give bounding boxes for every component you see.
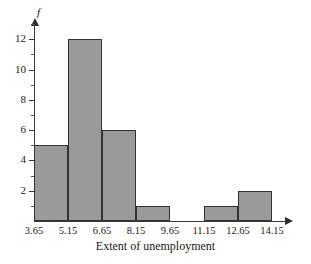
- y-tick-label-6: 6: [6, 124, 26, 135]
- plot-area: [34, 24, 286, 221]
- histogram-bar: [102, 130, 136, 221]
- y-axis-label: f: [37, 7, 40, 18]
- x-axis-title: Extent of unemployment: [0, 240, 311, 253]
- y-tick-label-4: 4: [6, 154, 26, 165]
- histogram-bar: [136, 206, 170, 221]
- histogram-figure: f 24681012 3.655.156.658.159.6511.1512.6…: [0, 0, 311, 264]
- histogram-bar: [68, 39, 102, 221]
- histogram-bar: [238, 191, 272, 221]
- x-axis-arrow-icon: [285, 217, 293, 225]
- y-tick-label-12: 12: [6, 33, 26, 44]
- histogram-bar: [204, 206, 238, 221]
- histogram-bar: [34, 145, 68, 221]
- y-tick-label-10: 10: [6, 64, 26, 75]
- y-tick-label-2: 2: [6, 185, 26, 196]
- y-tick-label-8: 8: [6, 94, 26, 105]
- x-axis-line: [34, 221, 286, 222]
- x-tick-label-14.15: 14.15: [252, 225, 292, 236]
